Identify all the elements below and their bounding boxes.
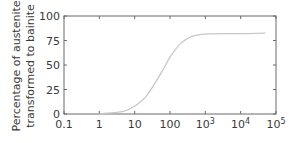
- x-tick-label: 105: [266, 117, 285, 131]
- y-axis-ticks: 0255075100: [39, 10, 276, 121]
- plot-frame: [64, 16, 276, 114]
- x-tick-label: 100: [160, 118, 181, 131]
- y-axis-title-line-2: transformed to bainite: [24, 4, 37, 128]
- y-tick-label: 50: [46, 59, 60, 72]
- y-axis-title-line-1: Percentage of austenite: [10, 0, 23, 131]
- x-tick-label: 103: [196, 117, 215, 131]
- bainite-transformation-chart: Percentage of austenite transformed to b…: [0, 0, 301, 143]
- data-line: [99, 33, 265, 114]
- y-tick-label: 25: [46, 84, 60, 97]
- y-tick-label: 75: [46, 35, 60, 48]
- y-tick-label: 100: [39, 10, 60, 23]
- x-tick-label: 0.1: [55, 118, 73, 131]
- x-tick-label: 1: [96, 118, 103, 131]
- y-axis-title: Percentage of austenite transformed to b…: [10, 0, 37, 131]
- x-tick-label: 104: [231, 117, 250, 131]
- x-tick-label: 10: [128, 118, 142, 131]
